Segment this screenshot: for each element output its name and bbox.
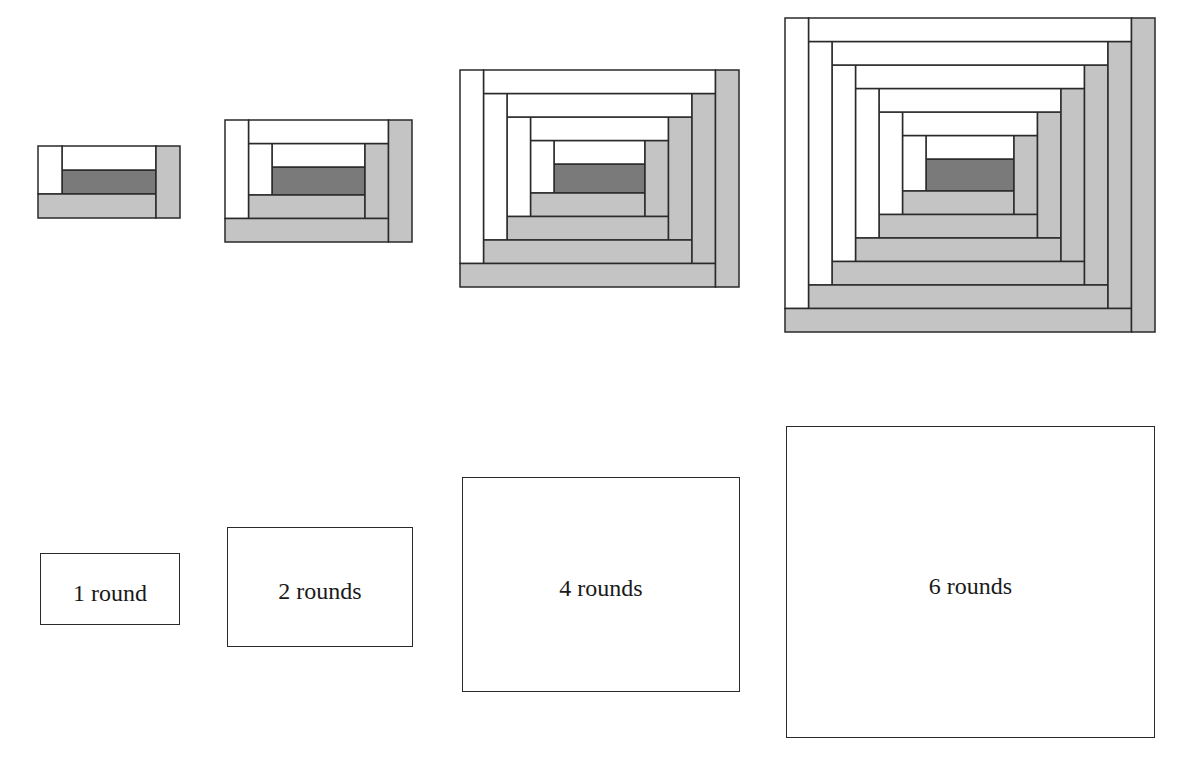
light-strip-top [531,117,669,141]
light-strip-top [856,65,1085,89]
light-strip-top [272,144,365,168]
light-strip-left [856,89,880,239]
label-box-2-rounds: 2 rounds [227,527,413,647]
light-strip-top [926,136,1014,160]
light-strip-left [225,120,249,219]
light-strip-top [249,120,389,144]
dark-strip-bottom [484,240,693,264]
light-strip-top [903,112,1038,136]
light-strip-left [484,94,508,241]
light-strip-left [809,42,833,286]
dark-strip-bottom [785,309,1132,333]
center-square [62,170,156,194]
dark-strip-right [1085,65,1109,285]
dark-strip-bottom [879,215,1038,239]
dark-strip-right [365,144,389,219]
log-cabin-2-rounds [225,120,412,242]
label-box-6-rounds: 6 rounds [786,426,1155,738]
dark-strip-bottom [38,194,156,218]
dark-strip-bottom [531,193,646,217]
log-cabin-1-rounds [38,146,180,218]
center-square [926,159,1014,191]
dark-strip-bottom [809,285,1109,309]
dark-strip-right [156,146,180,218]
dark-strip-right [389,120,413,242]
light-strip-top [879,89,1061,113]
log-cabin-6-rounds [785,18,1155,332]
dark-strip-bottom [507,217,669,241]
dark-strip-right [692,94,716,264]
dark-strip-right [716,70,740,287]
dark-strip-right [1108,42,1132,309]
dark-strip-bottom [903,191,1015,215]
label-text: 4 rounds [559,575,642,602]
light-strip-top [62,146,156,170]
label-text: 2 rounds [278,578,361,605]
light-strip-left [785,18,809,309]
light-strip-left [38,146,62,194]
light-strip-top [809,18,1132,42]
label-text: 1 round [73,580,147,607]
dark-strip-right [669,117,693,240]
dark-strip-right [1014,136,1038,215]
label-box-4-rounds: 4 rounds [462,477,740,692]
light-strip-left [460,70,484,264]
light-strip-left [507,117,531,217]
light-strip-left [903,136,927,192]
label-text: 6 rounds [929,573,1012,600]
light-strip-left [249,144,273,196]
center-square [272,167,365,195]
dark-strip-bottom [460,264,716,288]
light-strip-left [531,141,555,194]
dark-strip-right [1061,89,1085,262]
light-strip-left [879,112,903,215]
dark-strip-right [645,141,669,217]
light-strip-top [554,141,645,165]
dark-strip-right [1038,112,1062,238]
log-cabin-4-rounds [460,70,739,287]
dark-strip-bottom [856,238,1062,262]
light-strip-left [832,65,856,262]
label-box-1-round: 1 round [40,553,180,625]
center-square [554,164,645,193]
light-strip-top [832,42,1108,66]
light-strip-top [507,94,692,118]
light-strip-top [484,70,716,94]
dark-strip-bottom [225,219,389,243]
dark-strip-right [1132,18,1156,332]
dark-strip-bottom [249,195,366,219]
dark-strip-bottom [832,262,1085,286]
